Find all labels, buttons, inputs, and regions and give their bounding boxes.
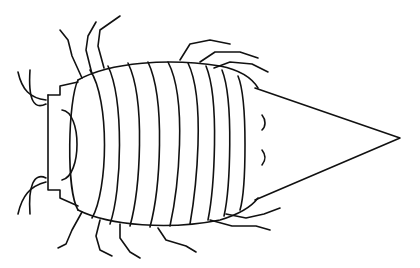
isopod-drawing xyxy=(0,0,420,268)
isopod-illustration xyxy=(0,0,420,268)
